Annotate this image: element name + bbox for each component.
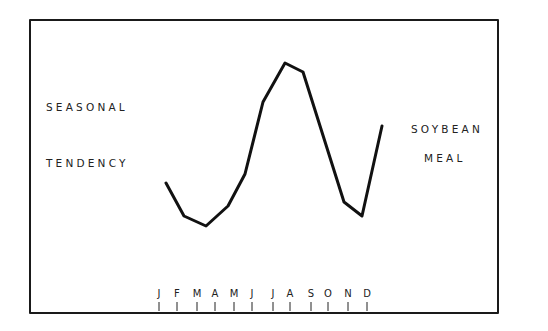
seasonal-line-plot: [0, 0, 548, 331]
month-label: F: [174, 288, 180, 299]
month-label: A: [287, 288, 294, 299]
soybean-meal-line: [166, 63, 382, 226]
month-label: N: [344, 288, 351, 299]
month-label: S: [308, 288, 314, 299]
month-label: D: [363, 288, 371, 299]
month-label: M: [193, 288, 202, 299]
month-label: M: [230, 288, 239, 299]
month-label: J: [251, 288, 254, 299]
month-label: J: [158, 288, 161, 299]
month-label: O: [324, 288, 332, 299]
month-label: J: [272, 288, 275, 299]
x-axis-ticks: [159, 302, 367, 311]
month-label: A: [212, 288, 219, 299]
